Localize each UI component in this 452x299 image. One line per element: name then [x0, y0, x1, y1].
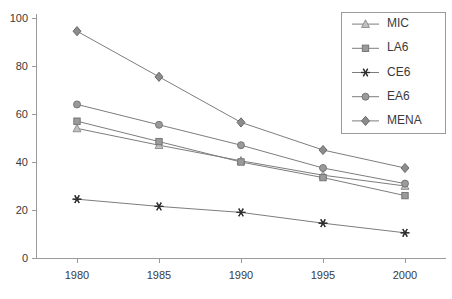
- series-line: [77, 199, 405, 233]
- data-point-marker: [362, 93, 369, 100]
- line-chart: 020406080100 19801985199019952000 MICLA6…: [0, 0, 452, 299]
- x-axis-tick-label: 1990: [229, 269, 253, 281]
- legend-label: MENA: [387, 113, 422, 127]
- data-point-marker: [320, 174, 326, 180]
- data-point-marker: [238, 142, 245, 149]
- y-axis-tick-label: 80: [16, 60, 28, 72]
- legend-label: LA6: [387, 40, 409, 54]
- data-point-marker: [402, 192, 408, 198]
- data-point-marker: [74, 118, 80, 124]
- data-point-marker: [401, 229, 410, 237]
- data-point-marker: [73, 195, 82, 203]
- y-axis-tick-label: 60: [16, 108, 28, 120]
- data-point-marker: [74, 101, 81, 108]
- legend-label: CE6: [387, 65, 411, 79]
- y-axis-tick-label: 20: [16, 204, 28, 216]
- x-axis: 19801985199019952000: [36, 258, 446, 281]
- chart-canvas: 020406080100 19801985199019952000 MICLA6…: [0, 0, 452, 299]
- y-axis-tick-label: 100: [10, 12, 28, 24]
- y-axis: 020406080100: [10, 12, 36, 264]
- y-axis-tick-label: 40: [16, 156, 28, 168]
- data-point-marker: [319, 145, 327, 154]
- legend-label: MIC: [387, 16, 409, 30]
- data-point-marker: [319, 219, 328, 227]
- data-point-marker: [237, 209, 246, 217]
- data-point-marker: [155, 203, 164, 211]
- data-point-marker: [362, 45, 368, 51]
- data-point-marker: [73, 27, 81, 36]
- data-point-marker: [320, 165, 327, 172]
- data-point-marker: [156, 138, 162, 144]
- legend-label: EA6: [387, 89, 410, 103]
- data-point-marker: [73, 124, 81, 132]
- x-axis-tick-label: 1985: [147, 269, 171, 281]
- data-point-marker: [155, 72, 163, 81]
- data-point-marker: [401, 163, 409, 172]
- x-axis-tick-label: 2000: [393, 269, 417, 281]
- data-point-marker: [156, 121, 163, 128]
- x-axis-tick-label: 1980: [65, 269, 89, 281]
- data-point-marker: [237, 118, 245, 127]
- series-ce6: [73, 195, 410, 236]
- chart-legend: MICLA6CE6EA6MENA: [341, 12, 445, 133]
- x-axis-tick-label: 1995: [311, 269, 335, 281]
- series-mic: [73, 124, 409, 189]
- y-axis-tick-label: 0: [22, 252, 28, 264]
- data-point-marker: [402, 180, 409, 187]
- data-point-marker: [238, 159, 244, 165]
